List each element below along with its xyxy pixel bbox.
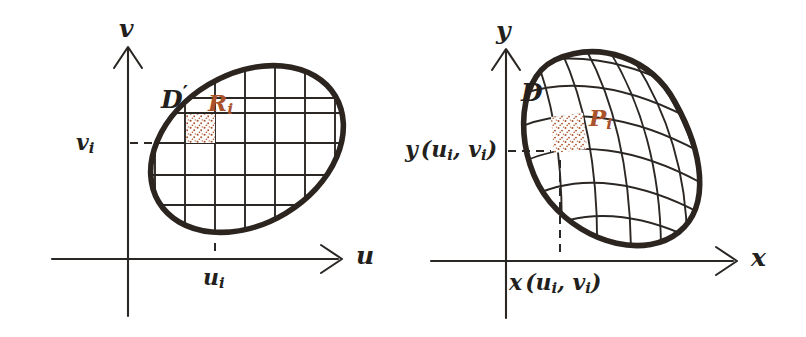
uv-sample-cell — [186, 114, 215, 143]
v-axis-label: v — [119, 16, 134, 41]
v-tick-subscript: i — [89, 139, 95, 157]
u-tick-base: u — [203, 264, 219, 290]
uv-region-prime: ′ — [183, 81, 188, 105]
xy-region-letter: D — [521, 78, 543, 107]
uv-plane-panel: v u vi ui D′ Ri — [0, 0, 403, 337]
y-tick-open-paren: ( — [418, 136, 431, 162]
xy-cell-subscript: i — [606, 114, 612, 133]
x-tick-arg2: v — [573, 269, 586, 295]
uv-cell-subscript: i — [227, 99, 233, 118]
uv-guide-lines — [130, 143, 215, 256]
uv-cell-label: Ri — [208, 91, 233, 117]
y-tick-comma: , — [453, 136, 468, 162]
uv-region-label: D′ — [161, 83, 188, 112]
x-tick-base: x — [509, 269, 522, 295]
uv-region-letter: D — [161, 85, 183, 114]
y-tick-base: y — [405, 136, 418, 162]
uv-axes — [52, 47, 342, 316]
uv-cell-letter: R — [208, 89, 227, 116]
x-tick-open-paren: ( — [522, 269, 535, 295]
x-tick-label: x(ui, vi) — [509, 271, 601, 296]
change-of-variables-figure: v u vi ui D′ Ri — [0, 0, 806, 337]
y-axis-label: y — [496, 18, 511, 43]
v-tick-label: vi — [76, 131, 94, 156]
xy-region-label: D — [521, 76, 543, 105]
xy-plane-graphics — [403, 0, 806, 337]
u-tick-subscript: i — [219, 274, 225, 292]
u-tick-label: ui — [203, 266, 225, 291]
v-tick-base: v — [76, 129, 89, 155]
y-tick-arg2: v — [468, 136, 481, 162]
x-tick-close-paren: ) — [591, 269, 601, 295]
xy-cell-label: Pi — [589, 106, 612, 132]
x-tick-arg1: u — [536, 269, 552, 295]
xy-plane-panel: y x y(ui, vi) x(ui, vi) D Pi — [403, 0, 806, 337]
y-tick-label: y(ui, vi) — [405, 138, 497, 163]
u-axis-label: u — [356, 243, 374, 268]
x-axis-label: x — [751, 245, 766, 270]
x-tick-comma: , — [557, 269, 572, 295]
xy-cell-letter: P — [589, 104, 606, 131]
y-tick-close-paren: ) — [487, 136, 497, 162]
y-tick-arg1: u — [431, 136, 447, 162]
xy-sample-cell — [551, 113, 587, 153]
uv-plane-graphics — [0, 0, 403, 337]
